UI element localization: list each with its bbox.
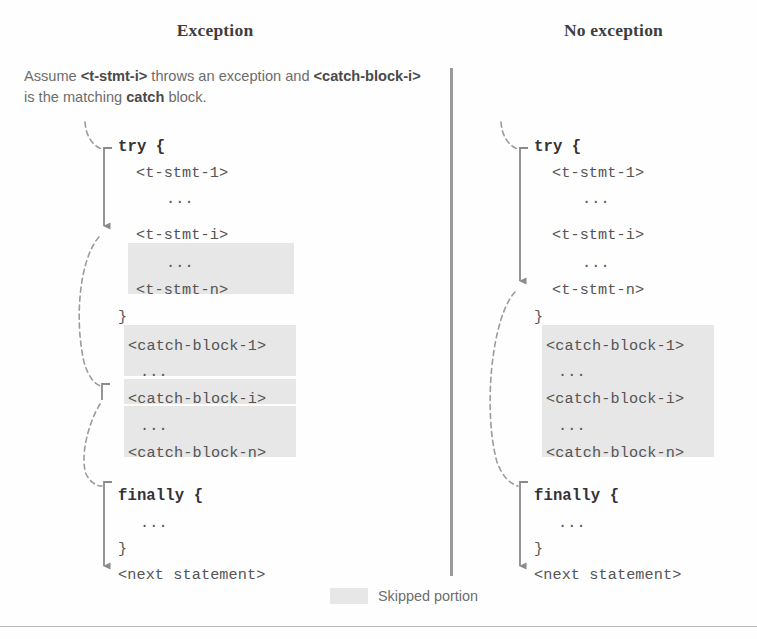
no-exception-code-line: ...	[582, 254, 610, 272]
no-exception-code-line: }	[534, 540, 543, 558]
no-exception-code-line: ...	[558, 363, 586, 381]
exception-code-line: finally {	[118, 487, 203, 505]
exception-code-line: try {	[118, 138, 165, 156]
no-exception-code-line: <catch-block-n>	[546, 444, 684, 462]
exception-code-line: <t-stmt-n>	[136, 281, 228, 299]
no-exception-code-line: <catch-block-1>	[546, 337, 684, 355]
figure-canvas: Exception No exception Assume <t-stmt-i>…	[0, 0, 757, 639]
no-exception-code-line: <catch-block-i>	[546, 390, 684, 408]
no-exception-code-line: }	[534, 308, 543, 326]
legend-label-skipped: Skipped portion	[378, 588, 478, 604]
no-exception-panel: try {<t-stmt-1>...<t-stmt-i>...<t-stmt-n…	[453, 0, 757, 639]
exception-code-line: }	[118, 540, 127, 558]
exception-code-line: <next statement>	[118, 566, 265, 584]
no-exception-code-line: <t-stmt-n>	[552, 281, 644, 299]
exception-code-line: ...	[140, 417, 168, 435]
exception-code-line: <catch-block-i>	[128, 390, 266, 408]
exception-code-line: ...	[166, 190, 194, 208]
exception-code-line: ...	[140, 363, 168, 381]
right-flow-diagram	[453, 0, 757, 639]
legend-swatch-skipped	[330, 588, 368, 604]
no-exception-code-line: ...	[558, 514, 586, 532]
exception-code-line: }	[118, 308, 127, 326]
no-exception-code-line: finally {	[534, 487, 619, 505]
no-exception-code-line: ...	[558, 417, 586, 435]
exception-code-line: ...	[166, 254, 194, 272]
legend: Skipped portion	[330, 588, 478, 604]
left-flow-diagram	[0, 0, 450, 639]
exception-code-line: <catch-block-1>	[128, 337, 266, 355]
exception-code-line: ...	[140, 514, 168, 532]
no-exception-code-line: <t-stmt-i>	[552, 226, 644, 244]
no-exception-code-line: <next statement>	[534, 566, 681, 584]
exception-code-line: <catch-block-n>	[128, 444, 266, 462]
no-exception-code-line: ...	[582, 190, 610, 208]
exception-panel: try {<t-stmt-1>...<t-stmt-i>...<t-stmt-n…	[0, 0, 450, 639]
no-exception-code-line: <t-stmt-1>	[552, 164, 644, 182]
page-bottom-rule	[0, 626, 757, 627]
exception-code-line: <t-stmt-1>	[136, 164, 228, 182]
no-exception-code-line: try {	[534, 138, 581, 156]
exception-code-line: <t-stmt-i>	[136, 226, 228, 244]
